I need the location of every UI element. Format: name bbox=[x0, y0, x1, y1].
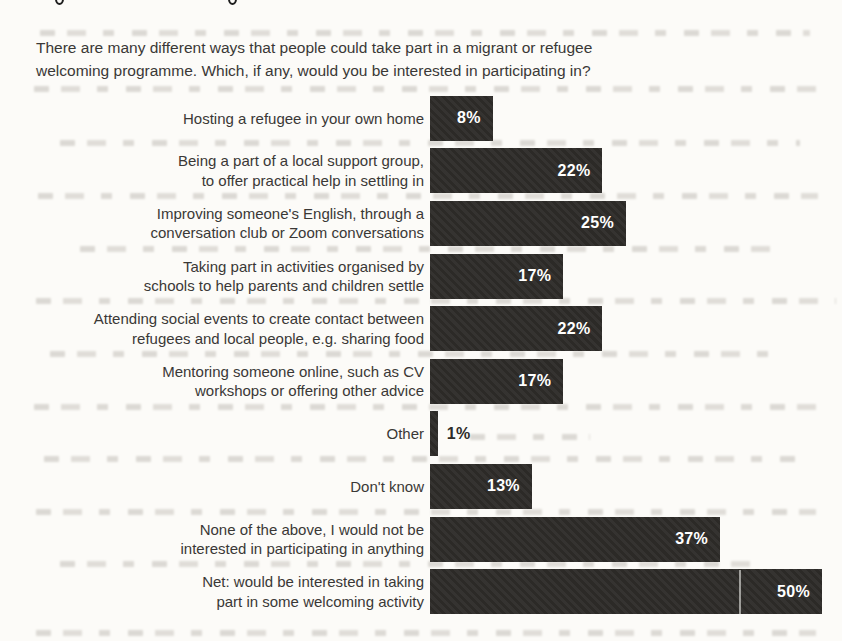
category-label: Being a part of a local support group, t… bbox=[0, 151, 424, 190]
value-label: 1% bbox=[438, 425, 471, 443]
bar: 8% bbox=[430, 96, 493, 141]
bar: 50% bbox=[430, 569, 822, 614]
chart-row: Don't know13% bbox=[0, 460, 842, 513]
chart-row: Improving someone's English, through a c… bbox=[0, 197, 842, 250]
category-label: Mentoring someone online, such as CV wor… bbox=[0, 362, 424, 401]
clipped-heading-glyph bbox=[55, 0, 64, 5]
value-label: 50% bbox=[777, 583, 822, 601]
chart-row: Taking part in activities organised by s… bbox=[0, 250, 842, 303]
value-label: 22% bbox=[558, 162, 603, 180]
chart-row: Other1% bbox=[0, 408, 842, 461]
chart-row: Attending social events to create contac… bbox=[0, 302, 842, 355]
chart-row: Mentoring someone online, such as CV wor… bbox=[0, 355, 842, 408]
bar: 17% bbox=[430, 254, 563, 299]
bar: 13% bbox=[430, 464, 532, 509]
value-label: 17% bbox=[518, 372, 563, 390]
chart-row: Net: would be interested in taking part … bbox=[0, 565, 842, 618]
clipped-heading-glyph bbox=[228, 0, 237, 5]
value-label: 37% bbox=[675, 530, 720, 548]
survey-question-text: There are many different ways that peopl… bbox=[36, 36, 776, 82]
value-label: 17% bbox=[518, 267, 563, 285]
scanned-report-figure: There are many different ways that peopl… bbox=[0, 0, 842, 641]
value-label: 22% bbox=[558, 320, 603, 338]
category-label: Improving someone's English, through a c… bbox=[0, 204, 424, 243]
bar: 37% bbox=[430, 517, 720, 562]
bar-chart: Hosting a refugee in your own home8%Bein… bbox=[0, 92, 842, 618]
bar: 22% bbox=[430, 306, 602, 351]
bar: 17% bbox=[430, 359, 563, 404]
bar bbox=[430, 411, 438, 456]
chart-row: None of the above, I would not be intere… bbox=[0, 513, 842, 566]
category-label: Other bbox=[0, 424, 424, 444]
chart-row: Being a part of a local support group, t… bbox=[0, 145, 842, 198]
category-label: Taking part in activities organised by s… bbox=[0, 257, 424, 296]
category-label: Don't know bbox=[0, 477, 424, 497]
value-label: 25% bbox=[581, 214, 626, 232]
bar: 25% bbox=[430, 201, 626, 246]
category-label: None of the above, I would not be intere… bbox=[0, 520, 424, 559]
value-label: 13% bbox=[487, 477, 532, 495]
category-label: Net: would be interested in taking part … bbox=[0, 572, 424, 611]
scan-artifact-vertical-line bbox=[739, 570, 741, 616]
chart-row: Hosting a refugee in your own home8% bbox=[0, 92, 842, 145]
value-label: 8% bbox=[457, 109, 493, 127]
category-label: Hosting a refugee in your own home bbox=[0, 109, 424, 129]
scan-artifact-line bbox=[36, 630, 816, 636]
bar: 22% bbox=[430, 148, 602, 193]
category-label: Attending social events to create contac… bbox=[0, 309, 424, 348]
